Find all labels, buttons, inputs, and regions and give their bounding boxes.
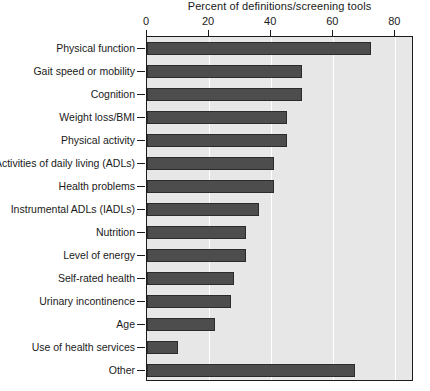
x-tick-label: 40: [264, 15, 276, 27]
category-label: Health problems: [59, 180, 135, 192]
category-label: Instrumental ADLs (IADLs): [11, 203, 135, 215]
category-tick-mark: [137, 140, 145, 141]
bar: [147, 180, 274, 193]
category-label: Other: [109, 364, 135, 376]
category-label: Age: [116, 318, 135, 330]
chart-title: Percent of definitions/screening tools: [146, 0, 413, 12]
bar: [147, 111, 287, 124]
x-tick-label: 0: [143, 15, 149, 27]
category-label: Use of health services: [32, 341, 135, 353]
bar: [147, 364, 355, 377]
category-label: Weight loss/BMI: [59, 111, 135, 123]
bar-chart: Percent of definitions/screening tools 0…: [0, 0, 430, 391]
category-tick-mark: [137, 209, 145, 210]
category-label: Physical activity: [61, 134, 135, 146]
category-tick-mark: [137, 301, 145, 302]
x-tick-label: 20: [202, 15, 214, 27]
bar: [147, 134, 287, 147]
bar: [147, 42, 371, 55]
category-tick-mark: [137, 278, 145, 279]
y-axis-category-labels: Physical functionGait speed or mobilityC…: [0, 36, 146, 381]
category-tick-mark: [137, 117, 145, 118]
category-tick-mark: [137, 370, 145, 371]
category-label: Physical function: [56, 42, 135, 54]
x-axis-tick-labels: 020406080: [0, 15, 430, 29]
category-tick-mark: [137, 71, 145, 72]
bar: [147, 341, 178, 354]
category-tick-mark: [137, 324, 145, 325]
category-label: Self-rated health: [58, 272, 135, 284]
bar: [147, 226, 246, 239]
bar: [147, 65, 302, 78]
category-label: Urinary incontinence: [39, 295, 135, 307]
category-tick-mark: [137, 94, 145, 95]
x-tick-label: 60: [326, 15, 338, 27]
category-tick-mark: [137, 186, 145, 187]
category-label: Gait speed or mobility: [33, 65, 135, 77]
bar: [147, 272, 234, 285]
category-tick-mark: [137, 255, 145, 256]
bar: [147, 157, 274, 170]
bar: [147, 295, 231, 308]
category-tick-mark: [137, 163, 145, 164]
category-tick-mark: [137, 232, 145, 233]
bar: [147, 318, 215, 331]
category-label: Cognition: [91, 88, 135, 100]
category-label: Level of energy: [63, 249, 135, 261]
category-tick-mark: [137, 347, 145, 348]
category-label: Nutrition: [96, 226, 135, 238]
plot-area: [146, 36, 413, 381]
bar: [147, 88, 302, 101]
bar: [147, 203, 259, 216]
x-tick-label: 80: [388, 15, 400, 27]
bars-layer: [147, 37, 412, 380]
bar: [147, 249, 246, 262]
category-tick-mark: [137, 48, 145, 49]
category-label: Activities of daily living (ADLs): [0, 157, 135, 169]
